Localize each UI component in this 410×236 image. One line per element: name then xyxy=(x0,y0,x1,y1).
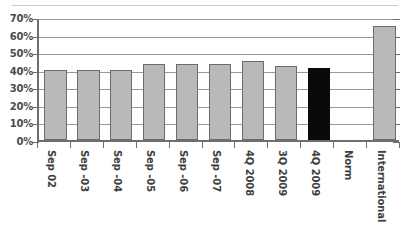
bar xyxy=(209,64,231,140)
y-axis-tick-mark xyxy=(32,37,39,38)
x-axis-tick-mark xyxy=(267,142,268,148)
y-axis-tick-label: 50% xyxy=(10,48,33,59)
x-axis-category-label: International xyxy=(376,150,387,222)
x-axis-tick-mark xyxy=(103,142,104,148)
y-axis-tick-label: 70% xyxy=(10,13,33,24)
bar xyxy=(77,70,99,140)
x-axis-category-label: 4Q 2009 xyxy=(310,150,321,196)
x-axis-category-labels: Sep 02Sep -03Sep -04Sep -05Sep -06Sep -0… xyxy=(37,150,399,234)
x-axis-category-label: 4Q 2008 xyxy=(244,150,255,196)
y-axis-tick-mark xyxy=(32,107,39,108)
x-axis-category-label: Sep -05 xyxy=(145,150,156,192)
x-axis-tick-mark xyxy=(366,142,367,148)
y-axis-tick-label: 30% xyxy=(10,83,33,94)
bar xyxy=(242,61,264,140)
x-axis-tick-mark xyxy=(37,142,38,148)
bar xyxy=(110,70,132,140)
bar xyxy=(44,70,66,140)
y-axis-tick-mark xyxy=(32,124,39,125)
bars-group xyxy=(39,19,399,140)
x-axis-tick-mark xyxy=(333,142,334,148)
y-axis-tick-mark xyxy=(32,89,39,90)
top-rule-divider xyxy=(12,5,398,6)
y-axis-tick-label: 10% xyxy=(10,118,33,129)
y-axis-tick-labels: 0%10%20%30%40%50%60%70% xyxy=(0,18,36,142)
y-axis-tick-label: 20% xyxy=(10,100,33,111)
y-axis-tick-mark xyxy=(32,72,39,73)
y-axis-tick-label: 60% xyxy=(10,30,33,41)
bar xyxy=(143,64,165,140)
y-axis-tick-mark xyxy=(32,19,39,20)
bar-chart-figure: 0%10%20%30%40%50%60%70% Sep 02Sep -03Sep… xyxy=(0,0,410,236)
plot-area xyxy=(37,19,399,142)
x-axis-tick-mark xyxy=(169,142,170,148)
x-axis-tick-mark xyxy=(300,142,301,148)
x-axis-category-label: Sep -03 xyxy=(79,150,90,192)
y-axis-tick-label: 40% xyxy=(10,65,33,76)
x-axis-category-label: Norm xyxy=(343,150,354,180)
x-axis-category-label: Sep -06 xyxy=(178,150,189,192)
x-axis-tick-mark xyxy=(234,142,235,148)
bar xyxy=(275,66,297,140)
x-axis-category-label: Sep -07 xyxy=(211,150,222,192)
y-axis-tick-marks xyxy=(32,19,39,140)
y-axis-tick-label: 0% xyxy=(16,136,33,147)
x-axis-tick-mark xyxy=(70,142,71,148)
bar xyxy=(308,68,330,140)
bar xyxy=(373,26,395,140)
x-axis-category-label: 3Q 2009 xyxy=(277,150,288,196)
y-axis-tick-mark xyxy=(32,54,39,55)
bar xyxy=(176,64,198,140)
x-axis-tick-mark xyxy=(136,142,137,148)
x-axis-tick-marks xyxy=(37,142,399,149)
x-axis-tick-mark xyxy=(202,142,203,148)
x-axis-tick-mark xyxy=(399,142,400,148)
x-axis-category-label: Sep -04 xyxy=(112,150,123,192)
x-axis-category-label: Sep 02 xyxy=(46,150,57,188)
